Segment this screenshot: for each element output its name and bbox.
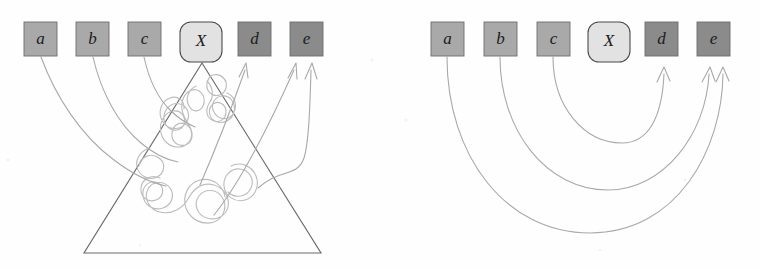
node-x-right[interactable]: X [588,22,630,62]
node-a-left-label: a [36,29,45,48]
node-d-right[interactable]: d [645,22,678,56]
node-c-right-label: c [550,29,558,48]
node-e-right[interactable]: e [697,22,730,56]
node-x-right-label: X [603,31,615,50]
figure-root: a b c X d e [0,0,760,269]
diagram-canvas: a b c X d e [0,0,760,269]
node-x-left-label: X [195,31,207,50]
node-a-left[interactable]: a [24,22,57,56]
node-c-left-label: c [141,29,149,48]
node-d-left[interactable]: d [238,22,271,56]
node-e-right-label: e [710,29,718,48]
node-b-left[interactable]: b [76,22,109,56]
node-c-right[interactable]: c [537,22,570,56]
node-b-right[interactable]: b [484,22,517,56]
node-e-left-label: e [303,29,311,48]
node-b-left-label: b [88,29,97,48]
node-d-left-label: d [250,29,259,48]
node-b-right-label: b [496,29,505,48]
node-d-right-label: d [657,29,666,48]
node-a-right[interactable]: a [431,22,464,56]
node-x-left[interactable]: X [180,22,222,62]
node-c-left[interactable]: c [128,22,161,56]
node-e-left[interactable]: e [290,22,323,56]
node-a-right-label: a [443,29,452,48]
